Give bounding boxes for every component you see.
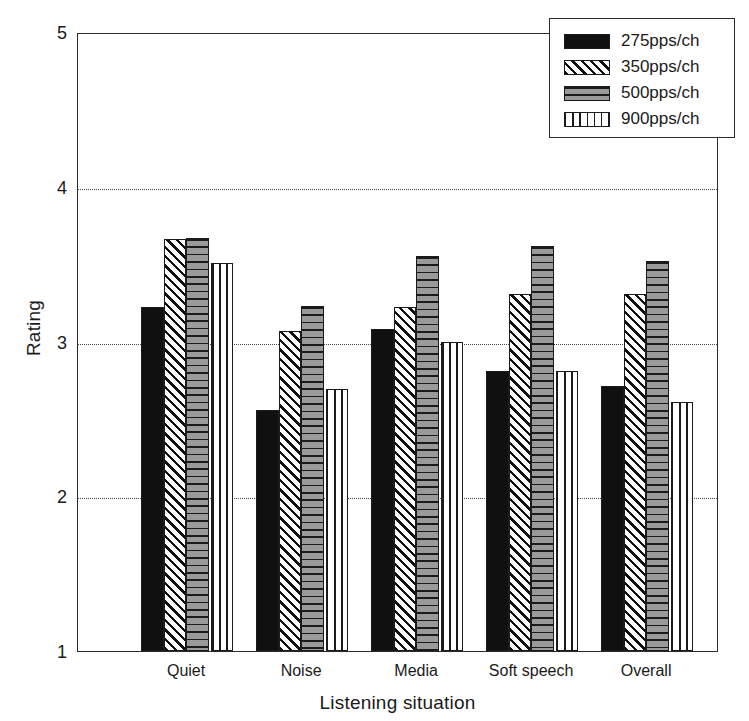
legend-item-label: 500pps/ch xyxy=(621,83,699,103)
grid-line xyxy=(78,189,717,190)
bar xyxy=(371,329,394,651)
bar xyxy=(486,371,509,651)
bar xyxy=(509,294,532,651)
legend-item-label: 275pps/ch xyxy=(621,31,699,51)
bar-chart-figure: Rating Listening situation 12345 QuietNo… xyxy=(0,0,749,721)
bar xyxy=(186,238,209,651)
bar xyxy=(601,386,624,651)
bar xyxy=(279,331,302,651)
legend-item: 900pps/ch xyxy=(564,106,734,132)
legend-swatch-icon xyxy=(564,86,610,101)
legend-item: 500pps/ch xyxy=(564,80,734,106)
y-tick-label: 4 xyxy=(27,179,67,197)
bar xyxy=(624,294,647,651)
bar xyxy=(256,410,279,651)
legend-swatch-icon xyxy=(564,60,610,75)
bar xyxy=(326,389,349,651)
legend-item: 350pps/ch xyxy=(564,54,734,80)
x-tick-label: Media xyxy=(394,662,438,680)
bar xyxy=(416,256,439,651)
bar xyxy=(441,342,464,652)
legend-swatch-icon xyxy=(564,34,610,49)
bar xyxy=(531,246,554,651)
x-tick-label: Noise xyxy=(281,662,322,680)
x-tick-label: Quiet xyxy=(167,662,205,680)
bar xyxy=(646,261,669,651)
x-tick-label: Soft speech xyxy=(489,662,574,680)
y-axis-title: Rating xyxy=(23,268,45,388)
legend-item-label: 350pps/ch xyxy=(621,57,699,77)
legend-item-label: 900pps/ch xyxy=(621,109,699,129)
y-tick-label: 1 xyxy=(27,643,67,661)
legend-swatch-icon xyxy=(564,112,610,127)
x-axis-title: Listening situation xyxy=(77,692,718,714)
y-tick-label: 2 xyxy=(27,488,67,506)
legend: 275pps/ch350pps/ch500pps/ch900pps/ch xyxy=(549,18,735,138)
bar xyxy=(211,263,234,651)
x-tick-label: Overall xyxy=(621,662,672,680)
bar xyxy=(671,402,694,651)
bar xyxy=(164,239,187,651)
y-tick-label: 5 xyxy=(27,24,67,42)
y-tick-label: 3 xyxy=(27,334,67,352)
bar xyxy=(394,307,417,651)
bar xyxy=(301,306,324,651)
legend-item: 275pps/ch xyxy=(564,28,734,54)
bar xyxy=(556,371,579,651)
bar xyxy=(141,307,164,651)
